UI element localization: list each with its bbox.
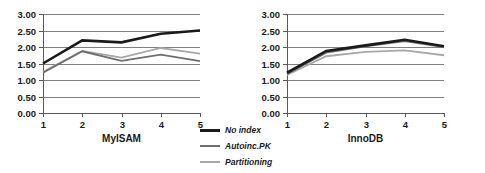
y-axis-tick-label: 3.00 — [18, 9, 37, 20]
legend-item: Autoinc.PK — [200, 138, 300, 154]
y-axis-tick-label: 3.00 — [262, 9, 281, 20]
legend-item-label: Partitioning — [225, 157, 272, 167]
y-axis-tick-label: 1.50 — [262, 59, 281, 70]
legend-item-label: Autoinc.PK — [225, 141, 271, 151]
x-axis-tick-label: 4 — [403, 119, 409, 130]
series-line-no-index — [287, 40, 444, 73]
series-line-partitioning — [287, 50, 444, 75]
x-axis-tick-label: 2 — [80, 119, 85, 130]
y-axis-tick-label: 1.00 — [18, 75, 37, 86]
y-axis-tick-label: 1.00 — [262, 75, 281, 86]
y-axis-tick-label: 1.50 — [18, 59, 37, 70]
y-axis-tick-label: 2.50 — [262, 26, 281, 37]
figure-root: 3.002.502.001.501.000.500.0012345MyISAM … — [0, 0, 485, 173]
y-axis-tick-label: 2.00 — [262, 42, 281, 53]
y-axis-tick-label: 0.00 — [18, 108, 37, 119]
x-axis-tick-label: 3 — [364, 119, 369, 130]
x-axis-tick-label: 2 — [324, 119, 329, 130]
x-axis-tick-label: 5 — [442, 119, 448, 130]
y-axis-tick-label: 0.50 — [262, 92, 281, 103]
y-axis-tick-label: 0.00 — [262, 108, 281, 119]
x-axis-tick-label: 4 — [159, 119, 165, 130]
legend-swatch-line-icon — [200, 161, 220, 163]
series-line-autoinc-pk — [43, 51, 200, 72]
y-axis-tick-label: 2.00 — [18, 42, 37, 53]
y-axis-tick-label: 0.50 — [18, 92, 37, 103]
chart-legend: No indexAutoinc.PKPartitioning — [200, 122, 300, 170]
legend-swatch-line-icon — [200, 129, 220, 132]
y-axis-tick-label: 2.50 — [18, 26, 37, 37]
legend-item: No index — [200, 122, 300, 138]
x-axis-tick-label: 1 — [41, 119, 47, 130]
legend-item: Partitioning — [200, 154, 300, 170]
x-axis-title: MyISAM — [102, 133, 141, 144]
legend-item-label: No index — [225, 125, 261, 135]
legend-swatch-line-icon — [200, 145, 220, 147]
x-axis-tick-label: 3 — [120, 119, 125, 130]
x-axis-title: InnoDB — [348, 133, 384, 144]
